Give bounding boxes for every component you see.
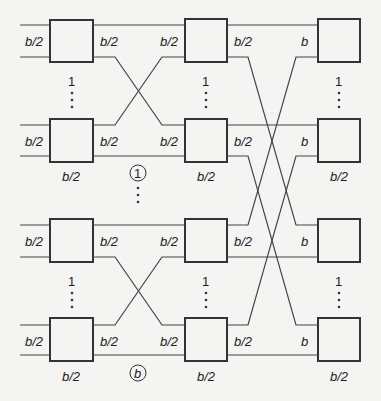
svg-text:b/2: b/2: [197, 369, 216, 384]
svg-text:b/2: b/2: [330, 369, 349, 384]
svg-text:b: b: [134, 366, 141, 381]
svg-text:1: 1: [68, 274, 75, 289]
switch-box-s3-r1: [318, 19, 360, 62]
labels-s2-out: b/2 b/2 b/2 b/2: [234, 34, 253, 349]
svg-text:b: b: [301, 34, 308, 49]
labels-s1-in: b/2 b/2 b/2 b/2: [25, 34, 44, 349]
svg-text:b/2: b/2: [100, 34, 119, 49]
labels-s1-out: b/2 b/2 b/2 b/2: [100, 34, 119, 349]
svg-text:b/2: b/2: [100, 134, 119, 149]
switch-box-s2-r1: [185, 19, 227, 62]
svg-text:b/2: b/2: [100, 234, 119, 249]
switch-box-s1-r1: [50, 20, 93, 62]
svg-text:b: b: [301, 234, 308, 249]
switch-box-s1-r2: [50, 119, 93, 162]
group-index-last: b: [130, 365, 146, 381]
svg-text:b/2: b/2: [234, 34, 253, 49]
wiring-s1-s2: [93, 25, 185, 355]
switch-box-s3-r3: [318, 219, 360, 262]
svg-text:b/2: b/2: [234, 134, 253, 149]
switch-box-s3-r2: [318, 119, 360, 162]
labels-s3-in: b b b b: [301, 34, 308, 349]
svg-text:b/2: b/2: [234, 334, 253, 349]
ellipsis-markers: 1 1 1 1 1 1: [68, 74, 342, 308]
svg-text:b/2: b/2: [197, 169, 216, 184]
svg-text:b/2: b/2: [100, 334, 119, 349]
switch-box-s1-r4: [50, 318, 93, 361]
svg-text:b/2: b/2: [25, 234, 44, 249]
svg-text:1: 1: [335, 274, 342, 289]
svg-text:1: 1: [134, 166, 141, 181]
switch-box-s1-r3: [50, 219, 93, 262]
svg-text:1: 1: [335, 74, 342, 89]
svg-text:b/2: b/2: [330, 169, 349, 184]
wiring-s2-s3: [227, 25, 318, 355]
svg-text:b/2: b/2: [25, 334, 44, 349]
svg-text:b/2: b/2: [25, 134, 44, 149]
diagram-canvas: b/2 b/2 b/2 b/2 b/2 b/2 b/2 b/2 b/2 b/2 …: [0, 0, 381, 401]
stage-3: [318, 19, 360, 361]
svg-text:1: 1: [68, 74, 75, 89]
svg-text:b/2: b/2: [25, 34, 44, 49]
svg-text:b/2: b/2: [160, 34, 179, 49]
switch-box-s2-r4: [185, 318, 227, 361]
svg-text:b/2: b/2: [234, 234, 253, 249]
stage-1-inputs: [20, 25, 50, 355]
group-index-first: 1: [130, 165, 146, 203]
svg-text:b/2: b/2: [160, 334, 179, 349]
svg-text:1: 1: [202, 74, 209, 89]
stage-1: [20, 20, 93, 361]
svg-text:1: 1: [202, 274, 209, 289]
switch-network-diagram: b/2 b/2 b/2 b/2 b/2 b/2 b/2 b/2 b/2 b/2 …: [0, 0, 381, 401]
svg-text:b/2: b/2: [62, 369, 81, 384]
svg-text:b/2: b/2: [160, 134, 179, 149]
labels-s2-in: b/2 b/2 b/2 b/2: [160, 34, 179, 349]
switch-box-s2-r3: [185, 219, 227, 262]
switch-box-s2-r2: [185, 119, 227, 162]
stage-2: [185, 19, 227, 361]
svg-text:b/2: b/2: [62, 169, 81, 184]
svg-text:b: b: [301, 134, 308, 149]
svg-text:b/2: b/2: [160, 234, 179, 249]
svg-text:b: b: [301, 334, 308, 349]
switch-box-s3-r4: [318, 318, 360, 361]
